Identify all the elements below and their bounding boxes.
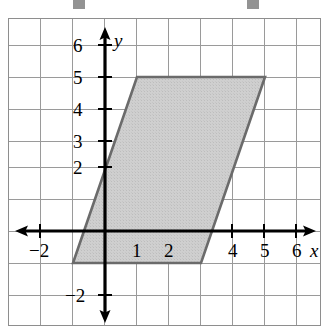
y-tick-label-neg2: −2	[65, 286, 85, 305]
x-tick-label-4: 4	[228, 241, 238, 260]
graph-figure: 6 5 4 3 2 −2 −2 1 2 4 5 6 y x	[0, 0, 329, 330]
x-tick-label-1: 1	[132, 241, 142, 260]
plot-drawing-layer	[9, 19, 321, 326]
x-tick-label-5: 5	[260, 241, 270, 260]
page-crop-artifact-right	[247, 0, 259, 9]
y-tick-label-6: 6	[73, 36, 83, 55]
page-crop-artifact-left	[73, 0, 85, 9]
x-tick-label-6: 6	[292, 241, 302, 260]
y-tick-label-5: 5	[73, 68, 83, 87]
y-axis-label: y	[114, 31, 122, 50]
coordinate-grid-frame: 6 5 4 3 2 −2 −2 1 2 4 5 6 y x	[8, 18, 321, 326]
y-tick-label-3: 3	[73, 132, 83, 151]
parallelogram-shape	[73, 77, 265, 263]
x-tick-label-2: 2	[164, 241, 174, 260]
x-axis-label: x	[310, 241, 318, 260]
y-tick-label-2: 2	[73, 158, 83, 177]
y-tick-label-4: 4	[73, 100, 83, 119]
x-tick-label-neg2: −2	[29, 241, 49, 260]
